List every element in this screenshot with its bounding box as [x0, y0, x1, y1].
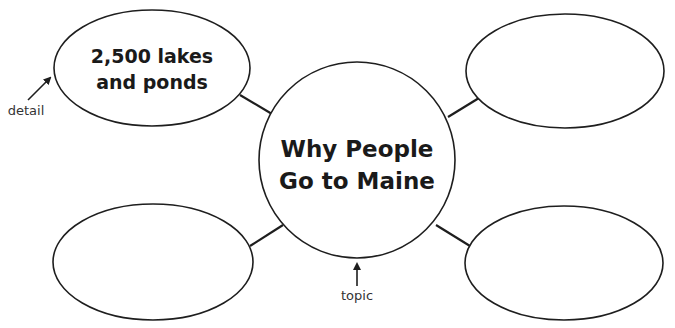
detail-arrow-icon [28, 78, 50, 100]
detail-line-1: 2,500 lakes [82, 43, 222, 69]
detail-ellipse-top-right [466, 14, 664, 128]
detail-ellipse-bottom-left [53, 204, 253, 320]
detail-ellipse-bottom-right [465, 206, 663, 320]
connector-bottom-left [250, 225, 283, 246]
topic-text: Why People Go to Maine [267, 133, 447, 197]
connector-bottom-right [436, 225, 470, 246]
connector-top-left [240, 95, 272, 114]
connector-top-right [448, 98, 479, 117]
detail-label: detail [6, 103, 46, 118]
topic-line-2: Go to Maine [267, 165, 447, 197]
topic-line-1: Why People [267, 133, 447, 165]
detail-line-2: and ponds [82, 69, 222, 95]
detail-text-top-left: 2,500 lakes and ponds [82, 43, 222, 95]
topic-label: topic [332, 288, 382, 303]
